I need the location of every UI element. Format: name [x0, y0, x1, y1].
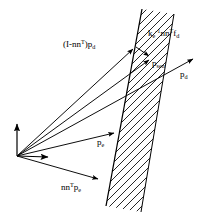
vector-sensed — [17, 60, 149, 156]
vector-projected-desired — [17, 49, 133, 156]
surface-right-edge — [141, 14, 174, 212]
figure-canvas: (I-nnT)pd ke-1nnTfd psen pd pe nnTpe — [0, 0, 213, 214]
vector-diagram-svg — [0, 0, 213, 214]
label-normal-environment-position: nnTpe — [61, 183, 81, 192]
label-environment-position: pe — [97, 138, 104, 147]
label-sensed-position: psen — [152, 59, 165, 68]
label-force-term: ke-1nnTfd — [148, 29, 179, 38]
vector-desired — [17, 59, 193, 156]
label-projected-desired: (I-nnT)pd — [63, 40, 95, 49]
label-desired-position: pd — [180, 70, 188, 79]
vector-normal-environment — [17, 156, 98, 179]
